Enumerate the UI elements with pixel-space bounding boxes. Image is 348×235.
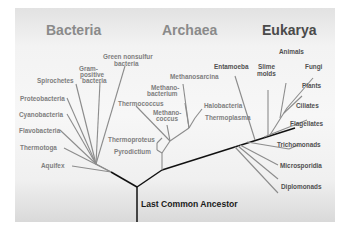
- taxon-label: Diplomonads: [281, 183, 322, 191]
- taxon-label: Thermoproteus: [108, 136, 155, 144]
- taxon-label: Thermococcus: [118, 100, 164, 107]
- taxon-label: Microsporidia: [280, 162, 322, 170]
- taxon-label: Flavobacteria: [19, 127, 61, 134]
- domain-label-archaea: Archaea: [162, 22, 217, 38]
- archaea-labels: Methanosarcina Methano- bacterium Haloba…: [108, 73, 251, 156]
- taxon-label: Trichomonads: [277, 141, 321, 148]
- taxon-label: Animals: [279, 48, 304, 55]
- taxon-label: molds: [257, 70, 276, 77]
- root-label: Last Common Ancestor: [141, 199, 238, 209]
- taxon-label: Thermoplasma: [205, 114, 251, 122]
- taxon-label: Aquifex: [41, 162, 65, 170]
- taxon-label: Proteobacteria: [20, 95, 65, 102]
- taxon-label: Thermotoga: [20, 144, 57, 152]
- taxon-label: bacteria: [82, 77, 107, 84]
- taxon-label: Fungi: [305, 63, 323, 71]
- taxon-label: coccus: [156, 115, 178, 122]
- phylogenetic-tree: Bacteria Archaea Eukarya: [0, 0, 348, 235]
- taxon-label: Entamoeba: [214, 63, 249, 70]
- taxon-label: Slime: [258, 63, 275, 70]
- domain-label-eukarya: Eukarya: [262, 22, 317, 38]
- taxon-label: bacterium: [147, 90, 178, 97]
- taxon-label: Cyanobacteria: [19, 111, 63, 119]
- taxon-label: Plants: [302, 82, 322, 89]
- taxon-label: Spirochetes: [37, 77, 74, 85]
- taxon-label: Green nonsulfur: [103, 53, 153, 60]
- taxon-label: Flagellates: [290, 120, 323, 128]
- taxon-label: Methanosarcina: [170, 73, 219, 80]
- taxon-label: Pyrodictium: [114, 148, 151, 156]
- taxon-label: Ciliates: [296, 102, 319, 109]
- taxon-label: Halobacteria: [204, 102, 243, 109]
- domain-label-bacteria: Bacteria: [46, 22, 101, 38]
- taxon-label: bacteria: [114, 60, 139, 67]
